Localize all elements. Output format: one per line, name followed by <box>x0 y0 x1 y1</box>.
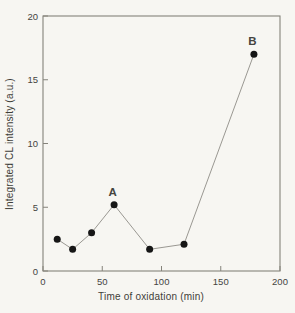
x-tick-label: 50 <box>97 276 108 287</box>
data-point <box>250 51 257 58</box>
axes-frame <box>43 16 280 271</box>
data-point <box>69 246 76 253</box>
data-point <box>88 229 95 236</box>
x-tick-label: 200 <box>272 276 288 287</box>
plot-area: 05010015020005101520AB <box>0 0 295 313</box>
data-point <box>54 236 61 243</box>
y-tick-label: 10 <box>27 138 38 149</box>
data-point <box>146 246 153 253</box>
y-tick-label: 15 <box>27 74 38 85</box>
chart-figure: 05010015020005101520AB Integrated CL int… <box>0 0 295 313</box>
data-point <box>181 241 188 248</box>
x-axis-label: Time of oxidation (min) <box>30 291 272 302</box>
x-tick-label: 150 <box>213 276 229 287</box>
y-axis-label: Integrated CL intensity (a.u.) <box>4 78 15 210</box>
series-line <box>57 54 254 249</box>
y-tick-label: 20 <box>27 11 38 22</box>
point-annotation-b: B <box>248 35 256 47</box>
point-annotation-a: A <box>108 186 116 198</box>
y-tick-label: 0 <box>33 266 38 277</box>
y-tick-label: 5 <box>33 202 38 213</box>
data-point <box>111 201 118 208</box>
x-tick-label: 0 <box>40 276 45 287</box>
x-tick-label: 100 <box>154 276 170 287</box>
